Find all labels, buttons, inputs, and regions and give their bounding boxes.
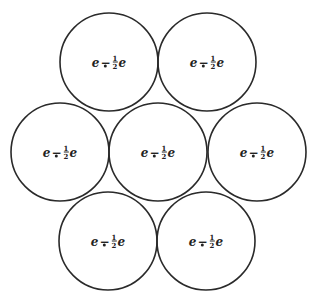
fraction-denominator: 2	[210, 242, 215, 249]
label-left-term: e	[43, 145, 51, 159]
label-right-term: e	[70, 145, 78, 159]
fraction-numerator: 1	[112, 234, 117, 241]
label-left-term: e	[240, 145, 248, 159]
label-left-term: e	[190, 55, 198, 69]
fraction-numerator: 1	[210, 234, 215, 241]
circle-label-middle-center: e−12e	[141, 145, 175, 160]
label-right-term: e	[217, 55, 225, 69]
fraction-denominator: 2	[162, 153, 167, 160]
minus-dot-operator: −	[149, 146, 159, 158]
minus-dot-operator: −	[248, 146, 258, 158]
minus-dot-operator: −	[100, 56, 110, 68]
circle-label-bottom-right: e−12e	[189, 234, 223, 249]
fraction-denominator: 2	[112, 242, 117, 249]
fraction-half: 12	[112, 234, 117, 249]
label-right-term: e	[118, 234, 126, 248]
fraction-half: 12	[162, 145, 167, 160]
label-right-term: e	[267, 145, 275, 159]
fraction-half: 12	[211, 55, 216, 70]
circle-label-middle-right: e−12e	[240, 145, 274, 160]
fraction-denominator: 2	[211, 63, 216, 70]
fraction-numerator: 1	[64, 145, 69, 152]
label-left-term: e	[91, 234, 99, 248]
circle-label-top-left: e−12e	[92, 55, 126, 70]
circle-label-bottom-left: e−12e	[91, 234, 125, 249]
circle-label-middle-left: e−12e	[43, 145, 77, 160]
label-left-term: e	[92, 55, 100, 69]
fraction-denominator: 2	[113, 63, 118, 70]
fraction-half: 12	[64, 145, 69, 160]
minus-dot-operator: −	[197, 235, 207, 247]
label-right-term: e	[168, 145, 176, 159]
fraction-half: 12	[261, 145, 266, 160]
minus-dot-operator: −	[99, 235, 109, 247]
fraction-numerator: 1	[113, 55, 118, 62]
minus-dot-operator: −	[198, 56, 208, 68]
label-left-term: e	[189, 234, 197, 248]
fraction-denominator: 2	[261, 153, 266, 160]
fraction-half: 12	[113, 55, 118, 70]
label-left-term: e	[141, 145, 149, 159]
fraction-half: 12	[210, 234, 215, 249]
circle-label-top-right: e−12e	[190, 55, 224, 70]
fraction-denominator: 2	[64, 153, 69, 160]
fraction-numerator: 1	[211, 55, 216, 62]
fraction-numerator: 1	[261, 145, 266, 152]
label-right-term: e	[216, 234, 224, 248]
fraction-numerator: 1	[162, 145, 167, 152]
label-right-term: e	[119, 55, 127, 69]
minus-dot-operator: −	[51, 146, 61, 158]
